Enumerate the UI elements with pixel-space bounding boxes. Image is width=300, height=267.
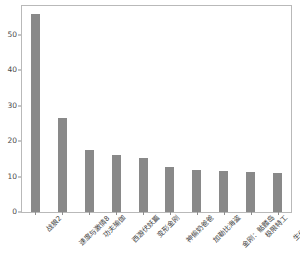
bar xyxy=(165,167,174,212)
y-axis-tick-mark xyxy=(18,176,21,177)
bar-chart-screenshot: 01020304050 战狼2速度与激情8功夫瑜伽西游伏妖篇变形金刚神偷奶爸爸加… xyxy=(0,0,300,267)
y-axis-tick-mark xyxy=(18,70,21,71)
y-axis-tick-label: 0 xyxy=(12,208,17,216)
bar xyxy=(58,118,67,212)
x-axis-tick-label: 加勒比海盗 xyxy=(212,215,242,245)
bar xyxy=(246,172,255,212)
x-axis-labels: 战狼2速度与激情8功夫瑜伽西游伏妖篇变形金刚神偷奶爸爸加勒比海盗金刚：骷髅岛极限… xyxy=(22,215,291,267)
x-axis-tick-label: 生化危机6 xyxy=(292,215,300,243)
y-axis-tick-label: 30 xyxy=(7,102,17,110)
y-axis: 01020304050 xyxy=(0,5,21,213)
bar xyxy=(192,170,201,212)
bars-layer xyxy=(22,6,291,212)
bar xyxy=(273,173,282,212)
y-axis-tick-mark xyxy=(18,35,21,36)
y-axis-tick-mark xyxy=(18,212,21,213)
bar xyxy=(31,14,40,212)
x-axis-tick-label: 西游伏妖篇 xyxy=(131,215,161,245)
x-axis-tick-label: 战狼2 xyxy=(46,215,64,233)
y-axis-tick-label: 40 xyxy=(7,67,17,75)
y-axis-tick-mark xyxy=(18,105,21,106)
bar xyxy=(112,155,121,212)
bar xyxy=(139,158,148,212)
y-axis-tick-label: 10 xyxy=(7,173,17,181)
y-axis-tick-label: 50 xyxy=(7,31,17,39)
bar xyxy=(219,171,228,212)
y-axis-tick-mark xyxy=(18,141,21,142)
y-axis-tick-label: 20 xyxy=(7,137,17,145)
bar xyxy=(85,150,94,212)
x-axis-tick-label: 神偷奶爸爸 xyxy=(185,215,215,245)
